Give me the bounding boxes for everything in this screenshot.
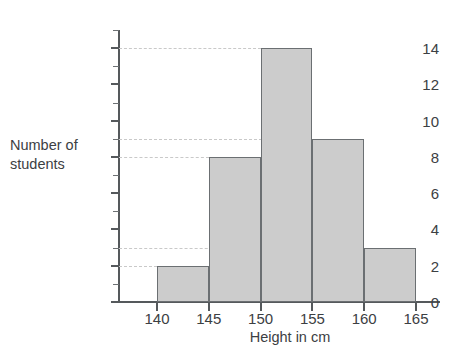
y-minor-tick (113, 175, 119, 176)
y-axis-line (118, 30, 120, 303)
y-tick (111, 228, 119, 230)
x-axis-title: Height in cm (190, 330, 390, 345)
y-tick (111, 120, 119, 122)
y-minor-tick (113, 139, 119, 140)
y-minor-tick (113, 103, 119, 104)
y-tick-label: 12 (353, 77, 453, 92)
y-tick-label: 14 (353, 41, 453, 56)
y-tick (111, 83, 119, 85)
bar (209, 157, 261, 302)
histogram-chart: 02468101214 140145150155160165 Number of… (0, 0, 453, 349)
y-minor-tick (113, 248, 119, 249)
gridline (119, 157, 209, 158)
y-tick-label: 8 (353, 150, 453, 165)
gridline (119, 48, 261, 49)
x-tick-label: 165 (386, 311, 446, 326)
bar (261, 48, 313, 302)
bar (157, 266, 209, 302)
y-tick-label: 2 (353, 259, 453, 274)
y-tick-label: 6 (353, 186, 453, 201)
bar (364, 248, 416, 302)
y-tick-label: 10 (353, 114, 453, 129)
y-tick (111, 265, 119, 267)
y-tick-label: 0 (353, 295, 453, 310)
y-tick-label: 4 (353, 222, 453, 237)
y-axis-title-line-1: Number of (10, 136, 106, 155)
y-minor-tick (113, 66, 119, 67)
y-tick (111, 47, 119, 49)
y-minor-tick (113, 211, 119, 212)
y-minor-tick (113, 284, 119, 285)
gridline (119, 266, 157, 267)
y-tick (111, 301, 119, 303)
y-axis-title-line-2: students (10, 155, 106, 174)
y-tick (111, 192, 119, 194)
y-minor-tick (113, 30, 119, 31)
y-axis-title: Number of students (10, 136, 106, 174)
y-tick (111, 156, 119, 158)
